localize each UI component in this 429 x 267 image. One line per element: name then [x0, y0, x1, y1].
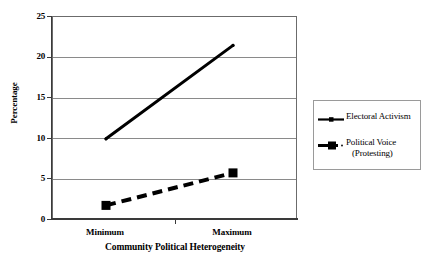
legend-label-political-voice: Political Voice(Protesting) [346, 137, 422, 159]
x-axis-tick-center [175, 219, 176, 224]
legend-swatch-solid-line-icon [318, 115, 344, 124]
legend-label-electoral-activism: Electoral Activism [346, 111, 422, 122]
y-tick-label-0: 0 [5, 215, 45, 224]
x-tick-label-minimum: Minimum [60, 227, 150, 237]
legend-swatch-dashed-line-square-icon [318, 141, 344, 150]
series-point-electoral-activism-maximum [231, 44, 234, 47]
series-marker-political-voice-minimum [102, 201, 111, 210]
x-axis-title: Community Political Heterogeneity [52, 242, 298, 252]
y-tick-label-20: 20 [5, 52, 45, 61]
plot-area [53, 17, 296, 218]
chart-figure: 25 20 15 10 5 0 Percentage [0, 0, 429, 267]
series-plot [53, 17, 298, 220]
legend-label-political-voice-line2: (Protesting) [346, 148, 422, 159]
y-tick-label-5: 5 [5, 174, 45, 183]
series-line-political-voice [106, 173, 233, 206]
plot-area-frame [52, 16, 297, 219]
series-line-electoral-activism [106, 45, 233, 138]
series-point-electoral-activism-minimum [104, 137, 107, 140]
chart-legend: Electoral Activism Political Voice(Prote… [313, 100, 421, 170]
y-axis-title: Percentage [9, 63, 19, 143]
x-tick-label-maximum: Maximum [187, 227, 277, 237]
y-axis-tick-labels: 25 20 15 10 5 0 [0, 0, 45, 267]
y-tick-label-25: 25 [5, 12, 45, 21]
legend-label-political-voice-line1: Political Voice [346, 137, 396, 147]
series-marker-political-voice-maximum [229, 168, 238, 177]
